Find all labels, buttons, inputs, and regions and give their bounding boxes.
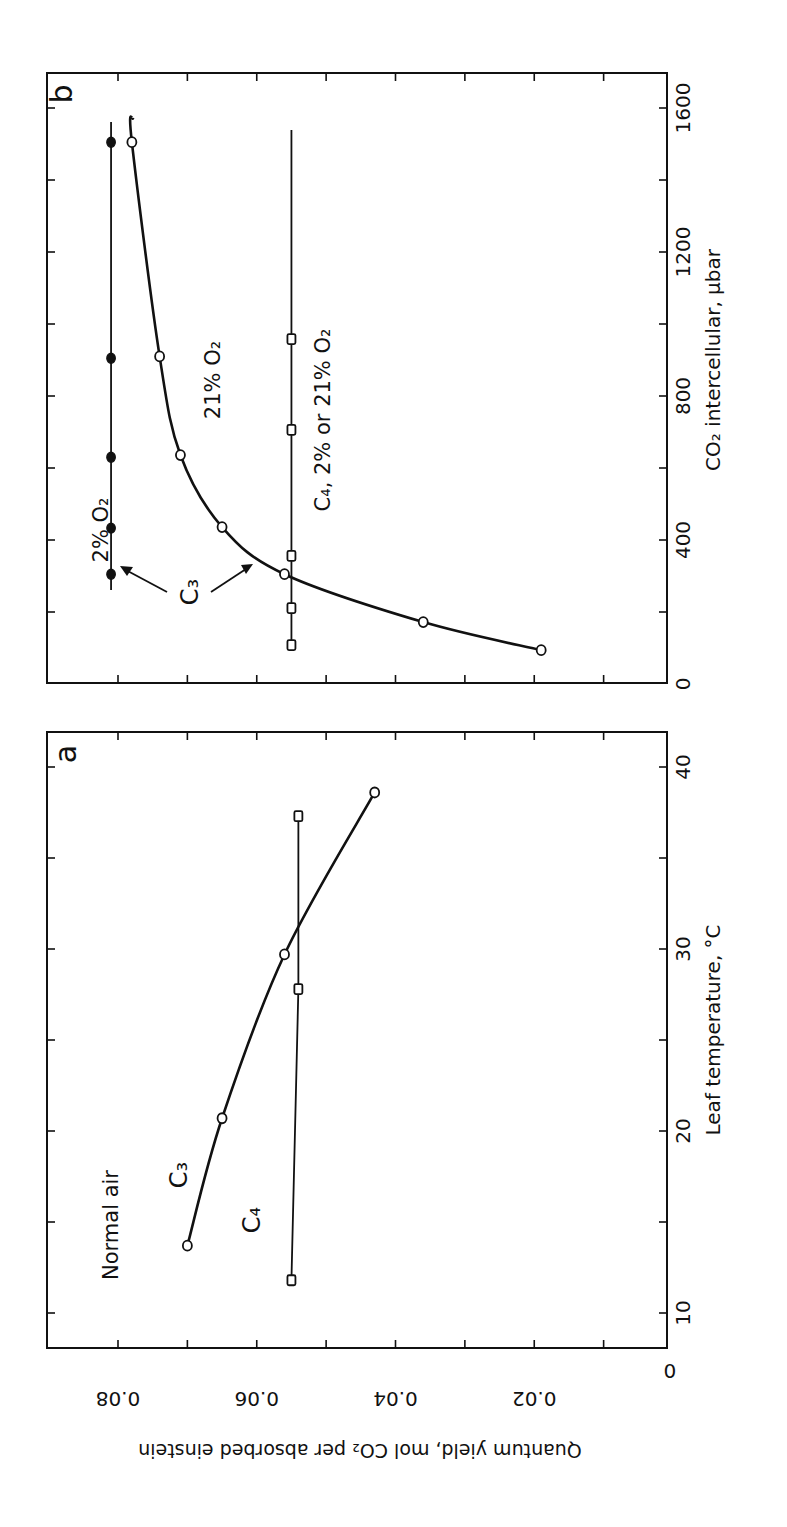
data-point: [107, 569, 115, 579]
data-point: [287, 425, 295, 435]
panel-b-frame: [47, 73, 667, 683]
data-point: [183, 1241, 192, 1251]
x-tick-label: 30: [671, 936, 695, 961]
x-tick-label: 1200: [671, 227, 695, 278]
x-tick-label: 10: [671, 1300, 695, 1325]
figure: b 040080012001600 CO₂ intercellular, μba…: [0, 0, 787, 1527]
data-point: [294, 984, 302, 994]
yield-tick-label: 0.04: [373, 1387, 418, 1411]
data-point: [107, 353, 115, 363]
data-point: [107, 137, 115, 147]
x-tick-label: 40: [671, 754, 695, 779]
panel-b-ticks: [47, 73, 667, 683]
x-tick-label: 1600: [671, 83, 695, 134]
data-point: [294, 811, 302, 821]
label-2pct-o2: 2% O₂: [89, 498, 113, 563]
panel-b-xlabel: CO₂ intercellular, μbar: [701, 248, 725, 471]
x-tick-label: 800: [671, 377, 695, 415]
data-point: [287, 603, 295, 613]
data-point: [176, 450, 185, 460]
panel-b: b 040080012001600 CO₂ intercellular, μba…: [44, 73, 725, 690]
yield-tick-label: 0.08: [96, 1387, 141, 1411]
series-line: [291, 816, 298, 1280]
series-line: [187, 792, 374, 1245]
data-point: [127, 137, 136, 147]
data-point: [280, 569, 289, 579]
label-c3-b: C₃: [176, 579, 204, 605]
yield-tick-label: 0.02: [512, 1387, 557, 1411]
x-tick-label: 20: [671, 1118, 695, 1143]
data-point: [419, 617, 428, 627]
x-tick-label: 400: [671, 521, 695, 559]
panel-b-xtick-labels: 040080012001600: [671, 83, 695, 691]
label-c4-a: C₄: [238, 1207, 266, 1233]
panel-a: a 10203040 Leaf temperature, °C Normal a…: [47, 732, 725, 1348]
yield-tick-label: 0.06: [234, 1387, 279, 1411]
label-normal-air: Normal air: [99, 1170, 123, 1280]
data-point: [280, 949, 289, 959]
data-point: [537, 645, 546, 655]
panel-a-xlabel: Leaf temperature, °C: [701, 924, 725, 1135]
panel-a-markers: [183, 787, 379, 1285]
x-tick-label: 0: [671, 678, 695, 691]
panel-a-xtick-labels: 10203040: [671, 754, 695, 1325]
label-21pct-o2: 21% O₂: [201, 341, 225, 419]
yield-tick-labels: 0.080.060.040.020: [96, 1359, 677, 1411]
data-point: [287, 1275, 295, 1285]
label-c3-a: C₃: [165, 1162, 193, 1188]
panel-a-lines: [187, 792, 374, 1280]
data-point: [155, 351, 164, 361]
panel-b-label: b: [44, 84, 79, 103]
label-c4-b: C₄, 2% or 21% O₂: [311, 329, 335, 512]
data-point: [107, 452, 115, 462]
svg-text:0: 0: [664, 1359, 677, 1383]
data-point: [218, 1113, 227, 1123]
data-point: [370, 787, 379, 797]
data-point: [287, 640, 295, 650]
data-point: [287, 551, 295, 561]
series-line: [130, 117, 541, 651]
data-point: [218, 522, 227, 532]
data-point: [287, 334, 295, 344]
panel-a-label: a: [48, 745, 83, 763]
yield-axis-label: Quantum yield, mol CO₂ per absorbed eins…: [138, 1440, 582, 1462]
